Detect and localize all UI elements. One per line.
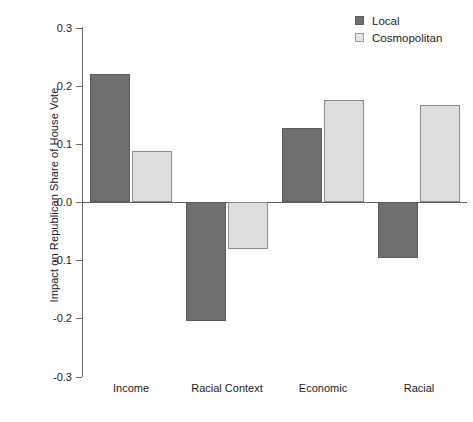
legend-item-local[interactable]: Local [355,12,442,29]
bar-cosmopolitan-racial-context[interactable] [228,202,268,249]
bar-local-racial[interactable] [378,202,418,258]
x-axis-label-racial-context: Racial Context [191,382,263,394]
bar-cosmopolitan-economic[interactable] [324,100,364,202]
x-axis-label-racial: Racial [404,382,435,394]
legend-item-cosmopolitan[interactable]: Cosmopolitan [355,29,442,46]
x-axis-label-economic: Economic [299,382,347,394]
bar-chart: Impact on Republican Share of House Vote… [0,0,473,422]
chart-legend: Local Cosmopolitan [355,12,442,46]
bar-local-income[interactable] [90,74,130,202]
bar-cosmopolitan-racial[interactable] [420,105,460,202]
bar-cosmopolitan-income[interactable] [132,151,172,202]
bar-local-economic[interactable] [282,128,322,202]
legend-label-local: Local [372,15,400,27]
cosmopolitan-swatch-icon [355,33,364,42]
x-axis-label-income: Income [113,382,149,394]
local-swatch-icon [355,16,364,25]
plot-area [0,0,473,422]
bar-local-racial-context[interactable] [186,202,226,321]
legend-label-cosmopolitan: Cosmopolitan [372,32,442,44]
